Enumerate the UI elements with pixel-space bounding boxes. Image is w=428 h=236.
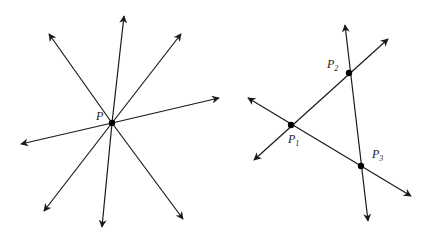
subscript: 1 — [295, 139, 299, 148]
line-p2-p3 — [345, 25, 368, 221]
concurrent-lines-figure: P — [21, 16, 219, 227]
triangle-lines-figure: P1P2P3 — [248, 25, 411, 221]
subscript: 2 — [334, 64, 338, 73]
ray-lower-right — [112, 123, 183, 219]
point-p3 — [358, 163, 364, 169]
line-p1-p3 — [248, 98, 411, 196]
subscript: 3 — [378, 154, 383, 163]
point-p — [109, 120, 115, 126]
point-p1 — [288, 122, 294, 128]
point-p2-label: P2 — [326, 57, 338, 73]
ray-bottom — [102, 123, 112, 227]
point-p2 — [346, 70, 352, 76]
point-p1-label: P1 — [287, 132, 299, 148]
diagram-canvas: P P1P2P3 — [0, 0, 428, 236]
point-p-label: P — [95, 109, 104, 123]
point-p3-label: P3 — [371, 147, 383, 163]
ray-top — [112, 16, 124, 123]
